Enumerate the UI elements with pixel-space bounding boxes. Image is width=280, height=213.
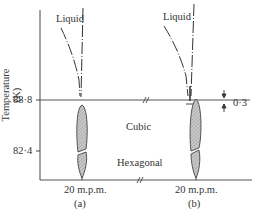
hexagonal-label: Hexagonal — [117, 158, 162, 169]
gap-arrows-icon — [222, 90, 226, 112]
x-label-b: 20 m.p.m. — [175, 185, 218, 196]
liquid-label-a: Liquid — [56, 14, 84, 25]
caption-b: (b) — [188, 199, 200, 210]
gap-label: 0·3 — [233, 98, 247, 109]
x-label-a: 20 m.p.m. — [64, 185, 107, 196]
caption-a: (a) — [74, 199, 86, 210]
liquid-label-b: Liquid — [163, 12, 191, 23]
cubic-label: Cubic — [126, 122, 151, 133]
crystal-lens-a — [77, 105, 87, 178]
crystal-lens-b — [190, 99, 201, 178]
y-tick-label-82-4: 82·4 — [13, 146, 32, 157]
y-tick-label-88-8: 88·8 — [13, 95, 32, 106]
phase-diagram: Temperature (K) 88·8 82·4 Liquid Liquid … — [0, 0, 280, 213]
